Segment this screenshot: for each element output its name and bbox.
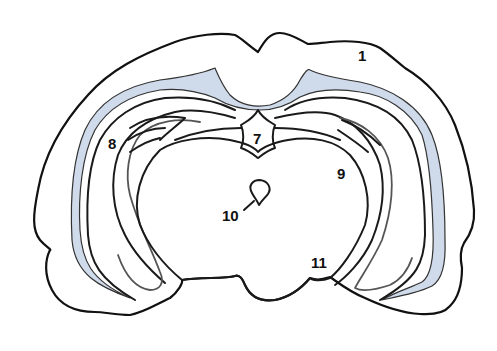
right-inner-curve <box>340 118 412 290</box>
label-10: 10 <box>222 208 239 223</box>
left-hippocampal-outline <box>113 110 235 283</box>
label-8: 8 <box>108 136 116 151</box>
label-7: 7 <box>253 131 261 146</box>
brain-section-diagram: 1 7 8 9 10 11 <box>0 0 497 351</box>
label-10-leader <box>244 201 254 210</box>
label-9: 9 <box>337 166 345 181</box>
brain-outline-drawing <box>0 0 497 351</box>
left-inner-curve <box>118 120 200 290</box>
right-inner-line <box>285 98 425 301</box>
thalamus-outline <box>137 138 368 300</box>
label-11: 11 <box>311 255 327 270</box>
label-1: 1 <box>358 48 366 63</box>
